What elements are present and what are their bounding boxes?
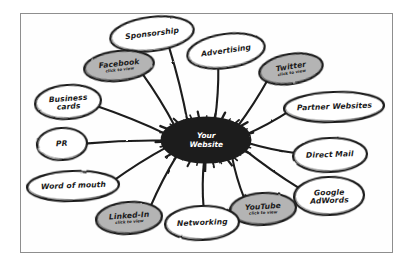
connector-sponsorship [169,48,187,122]
connector-partner-websites [245,110,290,134]
connector-direct-mail [246,142,297,153]
connector-advertising [215,66,218,120]
connector-youtube [232,156,244,198]
node-pr[interactable] [36,127,88,162]
node-direct-mail[interactable] [292,137,367,174]
node-word-of-mouth[interactable] [27,169,120,202]
node-advertising[interactable] [185,29,267,74]
node-facebook[interactable] [83,47,156,84]
node-twitter[interactable] [257,49,325,89]
connector-twitter [237,78,269,127]
node-ellipses [27,12,385,241]
node-google-adwords[interactable] [293,176,364,216]
diagram-svg [0,0,411,269]
connector-linked-in [150,154,178,207]
node-business-cards[interactable] [34,83,102,122]
node-networking[interactable] [164,205,239,242]
connector-facebook [143,75,175,127]
center-node-ellipse[interactable] [162,118,250,162]
connector-networking [203,160,204,208]
node-sponsorship[interactable] [108,12,196,56]
node-partner-websites[interactable] [284,90,385,123]
connector-business-cards [97,106,167,135]
connector-word-of-mouth [112,147,168,182]
connector-google-adwords [243,148,300,189]
connector-pr [85,140,166,143]
diagram-canvas: SponsorshipAdvertisingFacebookclick to v… [0,0,411,269]
node-linked-in[interactable] [95,200,163,237]
